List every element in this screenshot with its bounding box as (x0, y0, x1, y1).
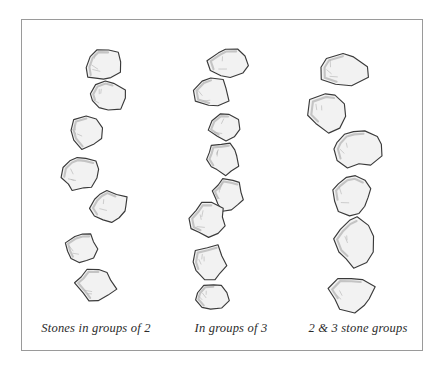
illustration-frame: Stones in groups of 2 In groups of 3 2 &… (21, 19, 423, 351)
stone-icon (308, 94, 346, 133)
stone-illustration-canvas (22, 20, 424, 352)
stone-column (308, 54, 382, 313)
stone-icon (75, 269, 117, 301)
stone-icon (90, 81, 125, 110)
stone-icon (334, 131, 382, 168)
stone-column (61, 50, 127, 301)
stones-layer (61, 49, 382, 313)
stone-icon (90, 191, 128, 223)
stone-icon (196, 285, 230, 309)
stone-icon (193, 78, 229, 106)
stone-icon (334, 217, 374, 268)
stone-icon (328, 279, 375, 313)
caption-column-1: Stones in groups of 2 (22, 321, 170, 336)
stone-column (189, 49, 248, 309)
stone-icon (71, 116, 102, 149)
figure-root: Stones in groups of 2 In groups of 3 2 &… (0, 0, 444, 368)
stone-icon (333, 176, 371, 216)
stone-icon (208, 114, 240, 141)
caption-column-3: 2 & 3 stone groups (292, 321, 424, 336)
stone-icon (207, 49, 248, 77)
caption-row: Stones in groups of 2 In groups of 3 2 &… (22, 321, 424, 336)
stone-icon (189, 202, 225, 237)
stone-icon (61, 158, 99, 191)
stone-icon (86, 50, 120, 79)
stone-icon (65, 234, 97, 263)
stone-icon (207, 143, 239, 176)
stone-icon (193, 245, 227, 280)
caption-column-2: In groups of 3 (170, 321, 292, 336)
stone-icon (321, 54, 368, 86)
